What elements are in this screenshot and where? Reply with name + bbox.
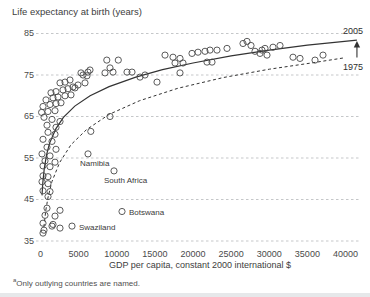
data-point-namibia [85, 151, 91, 157]
y-tick-label-85: 85 [10, 28, 34, 38]
data-point [264, 52, 270, 58]
data-point [50, 221, 56, 227]
data-point [68, 92, 74, 98]
data-point [290, 54, 296, 60]
data-point [102, 70, 108, 76]
data-point [47, 153, 53, 159]
country-label-swaziland: Swaziland [79, 223, 115, 232]
footnote: aOnly outlying countries are named. [13, 277, 140, 288]
y-tick-label-45: 45 [10, 194, 34, 204]
data-point [39, 151, 45, 157]
data-point [47, 164, 53, 170]
data-point [115, 57, 121, 63]
data-point [40, 136, 46, 142]
data-point [110, 69, 116, 75]
data-point [53, 146, 59, 152]
data-point [224, 45, 230, 51]
data-point [320, 52, 326, 58]
data-point [44, 144, 50, 150]
x-axis-title: GDP per capita, constant 2000 internatio… [40, 260, 360, 270]
y-tick-label-35: 35 [10, 236, 34, 246]
data-point [45, 108, 51, 114]
data-point [214, 47, 220, 53]
data-point [45, 181, 51, 187]
data-point [88, 128, 94, 134]
data-point [47, 101, 53, 107]
data-point [154, 79, 160, 85]
data-point [195, 49, 201, 55]
arrow-head [354, 41, 360, 48]
curve-label-1975: 1975 [343, 62, 363, 72]
data-point [177, 70, 183, 76]
data-point [248, 42, 254, 48]
data-point [40, 220, 46, 226]
data-point [44, 205, 50, 211]
data-point [52, 108, 58, 114]
data-point [170, 54, 176, 60]
data-point [57, 207, 63, 213]
curve-1975 [44, 58, 343, 227]
country-label-botswana: Botswana [129, 208, 164, 217]
data-point [52, 159, 58, 165]
data-point-swaziland [69, 223, 75, 229]
country-label-namibia: Namibia [80, 159, 109, 168]
data-point [62, 93, 68, 99]
data-point [177, 55, 183, 61]
data-point [162, 52, 168, 58]
data-point [297, 55, 303, 61]
data-point [172, 60, 178, 66]
curve-label-2005: 2005 [343, 26, 363, 36]
data-point [49, 116, 55, 122]
data-point [189, 50, 195, 56]
x-tick-label-40000: 40000 [324, 249, 368, 259]
data-point [277, 42, 283, 48]
data-point [45, 129, 51, 135]
data-point [104, 57, 110, 63]
footnote-text: Only outlying countries are named. [16, 279, 140, 288]
data-point-botswana [119, 208, 125, 214]
country-label-south-africa: South Africa [104, 176, 147, 185]
preston-curve-chart: Life expectancy at birth (years) 8575655… [0, 0, 370, 297]
y-tick-label-55: 55 [10, 153, 34, 163]
y-tick-label-75: 75 [10, 70, 34, 80]
y-tick-label-65: 65 [10, 111, 34, 121]
data-point [39, 179, 45, 185]
data-point [52, 213, 58, 219]
data-point [107, 65, 113, 71]
bottom-edge-bar [0, 293, 370, 297]
data-point [41, 114, 47, 120]
data-point-south-africa [111, 168, 117, 174]
data-point [44, 122, 50, 128]
data-point [82, 80, 88, 86]
data-point [57, 225, 63, 231]
data-point [40, 103, 46, 109]
